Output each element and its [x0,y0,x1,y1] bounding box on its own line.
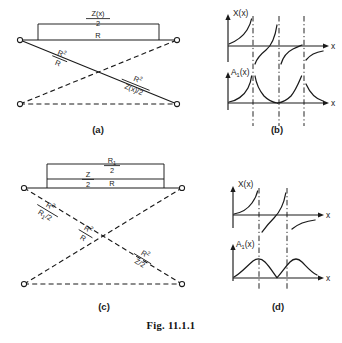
panel-a-terminal-top-left [17,37,22,42]
chart-b-bottom-valley-3 [278,76,302,103]
chart-d-top-xlabel: x [326,210,331,220]
panel-c-arm-inner-label: Z 2 [82,170,94,189]
panel-c-outer-num: R1 [108,156,116,166]
chart-d-top-xaxis-arrow [318,212,324,217]
panel-c-outer-den: 2 [110,166,114,175]
panel-a-diag-lower-den: Z(x)/2 [123,82,144,98]
chart-b-top-xlabel: x [331,41,336,51]
chart-b-top-branch-3 [281,45,302,64]
panel-a-diagonal-upper-label: R2 R [49,46,71,71]
chart-b-top-branch-2 [255,25,277,64]
panel-c-diagonal-label-1: R2 R1/2 [32,195,64,226]
figure-container: Z(x) 2 R R2 R R2 Z(x)/2 (a) [0,0,342,343]
chart-d-bottom-arch-2 [277,259,317,278]
panel-c-terminal-top-right [179,185,184,190]
panel-a-terminal-bottom-right [174,101,179,106]
panel-c-inner-den: 2 [86,180,90,189]
chart-d-top-yaxis-arrow [230,186,235,192]
figure-caption: Fig. 11.1.1 [147,320,196,331]
panel-a-series-arm-label: Z(x) 2 [86,9,110,28]
panel-a-label: (a) [92,124,104,135]
panel-b-label: (b) [271,124,283,135]
chart-b-bottom-yaxis-arrow [225,72,230,78]
panel-a-terminal-bottom-left [17,101,22,106]
panel-c-terminal-top-left [21,185,26,190]
panel-c-diag2-den: R [78,233,87,243]
chart-b-bottom-ylabel: A1(x) [231,67,250,78]
chart-d-top-ylabel: X(x) [238,179,254,189]
panel-c-terminal-bottom-left [21,281,26,286]
chart-b-bottom-valley-2 [255,76,277,103]
chart-d-top-branch-2 [262,193,286,232]
panel-a-diagonal-lower-label: R2 Z(x)/2 [118,69,153,99]
figure-svg: Z(x) 2 R R2 R R2 Z(x)/2 (a) [0,0,342,343]
panel-c-diagram: R1 2 Z 2 R R2 R1/2 R2 R [21,156,184,312]
chart-b-top-branch-1 [229,19,252,44]
chart-d-bottom: A1(x) x [230,239,331,283]
panel-a-series-denominator: 2 [96,19,100,28]
chart-d-bottom-arch-1 [234,259,277,278]
chart-b-bottom-xaxis-arrow [323,100,329,105]
panel-a-rail-label: R [95,31,100,40]
panel-c-inner-num: Z [86,170,91,179]
chart-d-bottom-xaxis-arrow [318,275,324,280]
chart-b-bottom-xlabel: x [331,98,336,108]
panel-a-diag-upper-den: R [54,58,62,68]
chart-b-top-ylabel: X(x) [233,8,249,18]
chart-b-top-branch-4 [306,51,323,60]
chart-d-top-branch-1 [234,191,258,214]
panel-c-rail-label: R [109,179,114,188]
panel-d-label: (d) [272,301,284,312]
chart-d-top-branch-3 [292,220,315,229]
chart-d-bottom-ylabel: A1(x) [236,239,255,250]
panel-a-series-numerator: Z(x) [91,9,104,18]
chart-d-bottom-yaxis-arrow [230,244,235,250]
panel-c-arm-outer-label: R1 2 [104,156,120,175]
panel-c-label: (c) [98,301,110,312]
panel-c-arm-box-outer [47,164,164,188]
panel-a-diagram: Z(x) 2 R R2 R R2 Z(x)/2 (a) [17,9,179,135]
chart-b-bottom-valley-1 [229,76,252,102]
chart-b-bottom-valley-4 [306,84,323,101]
panel-d-charts: X(x) x A1(x) x (d) [230,179,331,312]
panel-c-diag3-den: Z/2 [133,256,147,269]
panel-c-terminal-bottom-right [179,281,184,286]
panel-c-diagonal-label-2: R2 R [74,220,98,246]
panel-b-charts: X(x) x A1(x) x [225,8,336,135]
chart-b-top-xaxis-arrow [323,43,329,48]
chart-b-bottom: A1(x) x [225,67,336,110]
chart-b-top-yaxis-arrow [225,14,230,20]
chart-d-bottom-xlabel: x [326,273,331,283]
panel-c-diag1-den: R1/2 [36,207,54,223]
panel-a-terminal-top-right [174,37,179,42]
panel-c-diagonal-label-3: R2 Z/2 [129,244,157,272]
